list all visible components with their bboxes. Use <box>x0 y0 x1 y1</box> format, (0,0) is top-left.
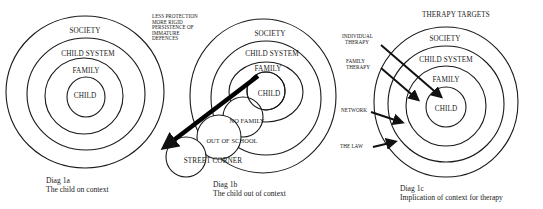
label-family: FAMILY <box>433 76 461 84</box>
note-line: DEFENCES <box>152 35 178 41</box>
label-society: SOCIETY <box>69 27 101 35</box>
diagram-1a: SOCIETY CHILD SYSTEM FAMILY CHILD Diag 1… <box>6 16 164 194</box>
caption-title: Diag 1b <box>213 180 237 189</box>
label-family: FAMILY <box>73 67 101 75</box>
diagram-1c: THERAPY TARGETS SOCIETY CHILD SYSTEM FAM… <box>340 11 518 202</box>
label-family: FAMILY <box>255 65 283 73</box>
caption-subtitle: The child out of context <box>213 189 287 198</box>
label-child-system: CHILD SYSTEM <box>419 56 473 64</box>
label-society: SOCIETY <box>254 30 286 38</box>
target-label-the-law: THE LAW <box>340 143 363 149</box>
label-street-corner: STREET CORNER <box>184 157 243 165</box>
caption-subtitle: Implication of context for therapy <box>400 193 503 202</box>
arrow-the-law <box>373 142 394 147</box>
target-label-individual-therapy-2: THERAPY <box>345 39 369 45</box>
label-out-of-school: OUT OF SCHOOL <box>206 137 257 144</box>
diagram-title: THERAPY TARGETS <box>422 11 490 19</box>
ring-society <box>374 27 518 177</box>
label-child: CHILD <box>435 105 457 113</box>
caption-title: Diag 1c <box>400 184 424 193</box>
label-child: CHILD <box>74 92 96 100</box>
label-society: SOCIETY <box>429 35 461 43</box>
target-label-family-therapy-2: THERAPY <box>346 64 370 70</box>
caption-title: Diag 1a <box>46 176 70 185</box>
label-child-system: CHILD SYSTEM <box>245 50 299 58</box>
label-child-system: CHILD SYSTEM <box>61 50 115 58</box>
caption-subtitle: The child on context <box>46 185 110 194</box>
note-block: LESS PROTECTION MORE RIGID PERSISTENCE O… <box>152 13 198 41</box>
label-no-family: NO FAMILY <box>229 117 264 124</box>
target-label-network: NETWORK <box>341 107 367 113</box>
context-diagrams: SOCIETY CHILD SYSTEM FAMILY CHILD Diag 1… <box>0 0 543 209</box>
label-child: CHILD <box>258 90 280 98</box>
diagram-1b: LESS PROTECTION MORE RIGID PERSISTENCE O… <box>152 13 336 198</box>
